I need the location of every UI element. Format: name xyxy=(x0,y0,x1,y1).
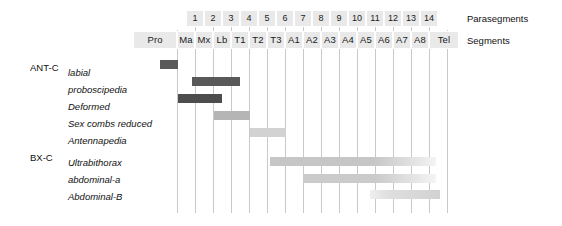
expression-bar-ultrabithorax xyxy=(270,157,436,166)
segment-cell: Ma xyxy=(177,31,195,49)
segment-cell: A4 xyxy=(339,31,357,49)
expression-bar-deformed xyxy=(178,94,222,103)
cluster-label-bx-c: BX-C xyxy=(30,152,53,163)
parasegment-cell: 1 xyxy=(186,10,204,27)
parasegment-cell: 2 xyxy=(204,10,222,27)
gene-label-row: Antennapedia xyxy=(68,130,176,148)
parasegment-cell: 8 xyxy=(312,10,330,27)
parasegment-cell: 9 xyxy=(330,10,348,27)
expression-bar-antennapedia xyxy=(250,128,286,137)
gene-label-row: Ultrabithorax xyxy=(68,152,176,170)
hox-expression-diagram: 1 2 3 4 5 6 7 8 9 10 11 12 13 14 Pro Ma … xyxy=(0,0,562,226)
cluster-label-ant-c: ANT-C xyxy=(30,62,59,73)
gene-label-proboscipedia: proboscipedia xyxy=(68,84,127,95)
segment-cell: Pro xyxy=(133,31,177,49)
gene-label-ultrabithorax: Ultrabithorax xyxy=(68,157,122,168)
gene-label-sex-combs-reduced: Sex combs reduced xyxy=(68,118,152,129)
parasegment-cell: 4 xyxy=(240,10,258,27)
segment-cell: T3 xyxy=(267,31,285,49)
segment-cell: T2 xyxy=(249,31,267,49)
segment-cell: A5 xyxy=(357,31,375,49)
parasegment-cell: 7 xyxy=(294,10,312,27)
segment-cell: A2 xyxy=(303,31,321,49)
expression-bar-abdominal-a xyxy=(303,174,436,183)
segment-cell: Tel xyxy=(429,31,459,49)
segment-cell: Mx xyxy=(195,31,213,49)
expression-bar-sex-combs-reduced xyxy=(214,111,250,120)
gene-label-row: Abdominal-B xyxy=(68,186,176,204)
parasegment-cell: 6 xyxy=(276,10,294,27)
gene-label-row: proboscipedia xyxy=(68,79,176,97)
gene-label-abdominal-a: abdominal-a xyxy=(68,174,120,185)
segment-cell: T1 xyxy=(231,31,249,49)
gene-label-abdominal-b: Abdominal-B xyxy=(68,191,122,202)
parasegment-cell: 14 xyxy=(420,10,438,27)
segment-cell: A7 xyxy=(393,31,411,49)
parasegment-cell: 11 xyxy=(366,10,384,27)
segment-cell: A1 xyxy=(285,31,303,49)
gridline xyxy=(447,30,448,213)
parasegment-cell: 5 xyxy=(258,10,276,27)
expression-bar-abdominal-b xyxy=(370,190,440,199)
gene-label-row: Sex combs reduced xyxy=(68,113,176,131)
segment-cell: A8 xyxy=(411,31,429,49)
expression-bar-proboscipedia xyxy=(192,77,240,86)
segment-cell: Lb xyxy=(213,31,231,49)
segment-cell: A3 xyxy=(321,31,339,49)
gene-label-deformed: Deformed xyxy=(68,101,110,112)
gene-label-antennapedia: Antennapedia xyxy=(68,135,127,146)
segment-cell: A6 xyxy=(375,31,393,49)
gene-label-labial: labial xyxy=(68,67,90,78)
expression-bar-labial xyxy=(160,60,178,69)
gene-label-row: Deformed xyxy=(68,96,176,114)
parasegment-cell: 13 xyxy=(402,10,420,27)
parasegments-caption: Parasegments xyxy=(467,13,528,25)
gridline xyxy=(177,30,178,213)
parasegment-cell: 10 xyxy=(348,10,366,27)
gene-label-row: abdominal-a xyxy=(68,169,176,187)
segments-caption: Segments xyxy=(467,35,510,47)
parasegment-cell: 12 xyxy=(384,10,402,27)
parasegment-cell: 3 xyxy=(222,10,240,27)
